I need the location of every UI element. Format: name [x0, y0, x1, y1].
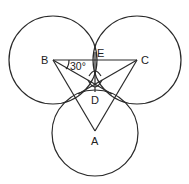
segment-c-to-d	[78, 60, 137, 94]
geometry-figure: B C A E D 30°	[0, 0, 189, 184]
label-d: D	[91, 94, 99, 106]
diagram-canvas: B C A E D 30°	[0, 0, 189, 184]
label-b: B	[41, 54, 48, 66]
angle-arc-b	[66, 60, 69, 69]
label-a: A	[91, 135, 99, 147]
label-c: C	[141, 54, 149, 66]
label-e: E	[97, 47, 104, 59]
segment-ca	[95, 60, 137, 131]
angle-label-30: 30°	[70, 60, 86, 72]
